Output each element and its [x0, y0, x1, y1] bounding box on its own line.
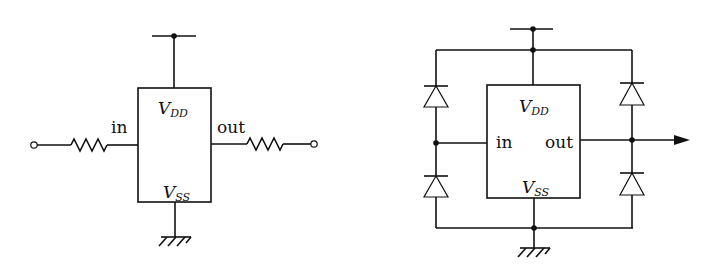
output-clamp-diode-upper [620, 83, 644, 105]
left-out-label: out [217, 117, 245, 137]
left-input-terminal [31, 142, 37, 148]
right-diagram: VDD VSS in out [424, 26, 690, 257]
right-in-label: in [496, 132, 512, 152]
left-vss-label: VSS [163, 182, 191, 204]
circuit-diagrams: VDD VSS in out [0, 0, 712, 275]
input-clamp-diode-upper [424, 86, 448, 107]
left-input-resistor [71, 139, 107, 151]
left-in-label: in [111, 117, 127, 137]
left-output-resistor [247, 138, 283, 150]
output-clamp-diode-lower [620, 173, 644, 195]
right-vdd-node [530, 26, 536, 32]
right-vdd-label: VDD [519, 96, 549, 118]
left-vdd-label: VDD [158, 98, 188, 120]
left-vdd-node [171, 33, 177, 39]
right-ground-icon [518, 248, 550, 257]
input-clamp-diode-lower [424, 176, 448, 197]
left-ground-icon [159, 237, 191, 246]
left-output-terminal [311, 141, 317, 147]
output-arrow-icon [674, 135, 690, 145]
right-bottom-junction [531, 225, 537, 231]
right-vss-label: VSS [522, 177, 550, 199]
left-diagram: VDD VSS in out [31, 33, 317, 246]
right-out-label: out [545, 132, 573, 152]
